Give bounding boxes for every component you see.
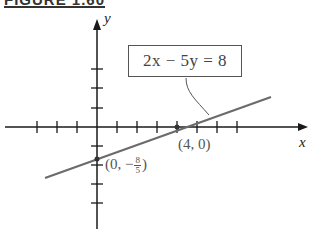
equation-text: 2x − 5y = 8 bbox=[143, 51, 227, 71]
y-intercept-label: (0, −85) bbox=[105, 156, 147, 175]
y-intercept-point bbox=[95, 157, 100, 162]
x-axis-arrow-icon bbox=[298, 123, 308, 131]
x-intercept-point bbox=[175, 125, 180, 130]
fraction-denominator: 5 bbox=[135, 166, 140, 175]
x-intercept-label: (4, 0) bbox=[178, 136, 211, 153]
equation-label-box: 2x − 5y = 8 bbox=[128, 45, 242, 77]
label-leader-line bbox=[186, 78, 209, 115]
y-intercept-label-prefix: (0, − bbox=[105, 156, 133, 172]
fraction: 85 bbox=[134, 156, 141, 175]
y-axis-arrow-icon bbox=[93, 19, 101, 30]
coordinate-plane bbox=[0, 0, 309, 231]
y-intercept-label-suffix: ) bbox=[142, 156, 147, 172]
y-axis-label: y bbox=[104, 10, 111, 27]
equation-line bbox=[45, 97, 271, 178]
x-axis-label: x bbox=[299, 134, 306, 151]
